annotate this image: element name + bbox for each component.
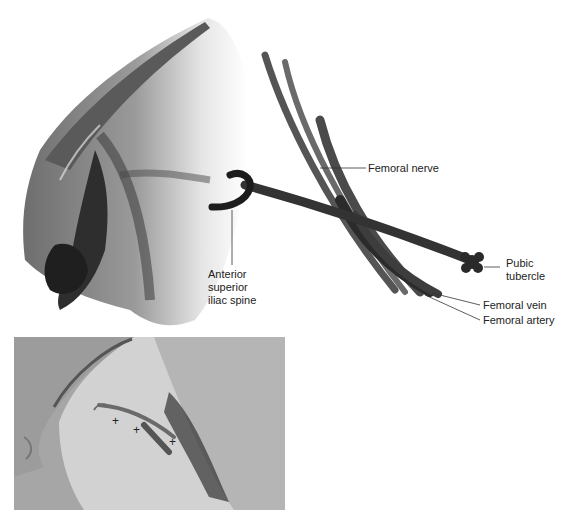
label-anterior-superior-iliac-spine: Anterior superior iliac spine [208, 268, 256, 307]
label-femoral-artery: Femoral artery [483, 314, 555, 327]
marker-asis: + [112, 414, 119, 428]
clinical-photo-render [14, 337, 285, 510]
anatomy-figure: Femoral nerve Anterior superior iliac sp… [0, 0, 569, 524]
label-pubic-line-1: Pubic [506, 257, 545, 270]
label-femoral-nerve: Femoral nerve [368, 162, 439, 175]
marker-femoral-nerve: + [133, 423, 140, 437]
clinical-photo: + + + [14, 337, 285, 510]
label-asis-line-2: superior [208, 281, 256, 294]
label-asis-line-3: iliac spine [208, 294, 256, 307]
pubic-tubercle-shape [460, 252, 484, 273]
label-asis-line-1: Anterior [208, 268, 256, 281]
marker-pubic-tubercle: + [169, 435, 176, 449]
label-femoral-vein: Femoral vein [483, 299, 547, 312]
label-pubic-tubercle: Pubic tubercle [506, 257, 545, 283]
label-pubic-line-2: tubercle [506, 270, 545, 283]
